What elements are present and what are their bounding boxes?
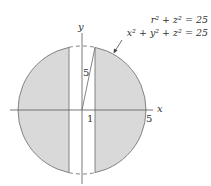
equation-rectangular: x² + y² + z² = 25: [127, 27, 208, 38]
x-axis-label: x: [157, 103, 163, 114]
y-axis-label: y: [77, 21, 84, 32]
outer-x-tick-label: 5: [146, 113, 152, 124]
arrow-icon: [114, 40, 123, 54]
inner-x-tick-label: 1: [87, 113, 93, 124]
sphere-region-diagram: y x 5 1 5 r² + z² = 25 x² + y² + z² = 25: [0, 0, 211, 186]
equation-cylindrical: r² + z² = 25: [151, 14, 208, 25]
radius-line: [82, 48, 95, 111]
radius-label: 5: [83, 67, 89, 78]
